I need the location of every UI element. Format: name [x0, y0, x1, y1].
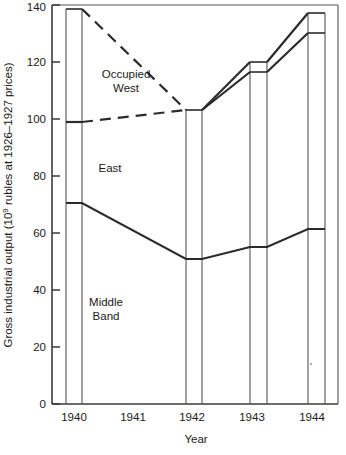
band-label-east-line1: East [98, 162, 122, 174]
x-tick-label-1941: 1941 [120, 411, 146, 423]
x-axis-title: Year [184, 433, 207, 445]
y-tick-label-60: 60 [33, 227, 46, 239]
x-tick-label-1944: 1944 [299, 411, 325, 423]
y-tick-label-80: 80 [33, 170, 46, 182]
y-tick-label-120: 120 [27, 56, 46, 68]
series-middle-band-boundary [66, 203, 325, 259]
y-axis-ticks [52, 5, 60, 404]
bar-1943 [250, 62, 267, 404]
series-total-occupied-west-boundary [82, 9, 308, 110]
bar-1944 [308, 13, 325, 404]
y-tick-label-100: 100 [27, 113, 46, 125]
band-label-occupied-west-line2: West [113, 82, 140, 94]
band-label-east: East [98, 162, 122, 174]
band-label-middle-band-line2: Band [93, 310, 120, 322]
band-label-middle-band-line1: Middle [89, 296, 123, 308]
x-tick-label-1943: 1943 [239, 411, 265, 423]
band-label-middle-band: Middle Band [89, 296, 123, 322]
y-axis-title: Gross industrial output (109 rubles at 1… [1, 62, 14, 347]
svg-text:Gross industrial output (109 r: Gross industrial output (109 rubles at 1… [1, 62, 14, 347]
bar-1942 [186, 110, 202, 404]
chart-figure: Gross industrial output (109 rubles at 1… [0, 0, 346, 455]
x-tick-label-1942: 1942 [179, 411, 205, 423]
x-tick-label-1940: 1940 [61, 411, 87, 423]
y-tick-label-0: 0 [40, 398, 46, 410]
y-tick-label-20: 20 [33, 341, 46, 353]
x-axis-tick-labels: 1940 1941 1942 1943 1944 [61, 411, 325, 423]
band-label-occupied-west: Occupied West [102, 68, 151, 94]
y-tick-label-40: 40 [33, 284, 46, 296]
plot-frame [52, 5, 338, 404]
y-axis-title-tail: rubles at 1926–1927 prices) [2, 62, 14, 208]
y-axis-tick-labels: 0 20 40 60 80 100 120 140 [27, 1, 46, 410]
y-tick-label-140: 140 [27, 1, 46, 13]
bar-1940 [66, 9, 82, 404]
band-label-occupied-west-line1: Occupied [102, 68, 151, 80]
y-axis-title-main: Gross industrial output (10 [2, 213, 14, 348]
scan-speck [310, 363, 312, 365]
chart-svg: Gross industrial output (109 rubles at 1… [0, 0, 346, 455]
